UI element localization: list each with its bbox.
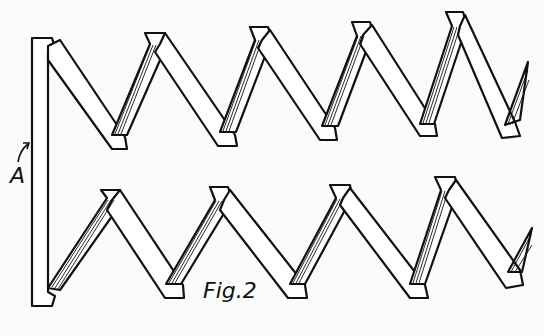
arrow-icon: [18, 144, 28, 162]
vertical-bar: [32, 38, 55, 306]
zigzag-drawing: [0, 0, 544, 336]
top-stub: [505, 62, 528, 125]
figure-caption: Fig.2: [203, 278, 257, 303]
top-strip-9: [458, 15, 520, 138]
label-a: A: [10, 163, 25, 188]
